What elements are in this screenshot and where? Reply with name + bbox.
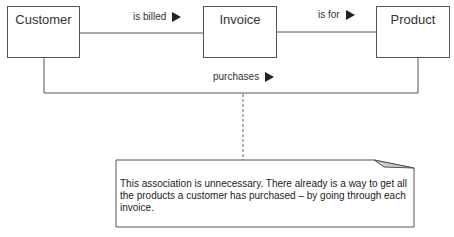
- class-customer-label: Customer: [8, 12, 79, 27]
- class-product[interactable]: Product: [376, 6, 450, 58]
- is-billed-text: is billed: [133, 11, 166, 22]
- purchases-text: purchases: [213, 71, 259, 82]
- is-for-text: is for: [318, 9, 340, 20]
- association-label-purchases: purchases: [213, 71, 274, 82]
- class-product-label: Product: [377, 12, 449, 27]
- association-label-is-billed: is billed: [133, 11, 181, 22]
- class-customer[interactable]: Customer: [7, 6, 80, 58]
- triangle-right-icon: [172, 12, 181, 22]
- triangle-right-icon: [265, 72, 274, 82]
- class-invoice[interactable]: Invoice: [203, 6, 277, 58]
- class-invoice-label: Invoice: [204, 12, 276, 27]
- triangle-right-icon: [346, 10, 355, 20]
- note-text: This association is unnecessary. There a…: [120, 178, 410, 214]
- association-label-is-for: is for: [318, 9, 355, 20]
